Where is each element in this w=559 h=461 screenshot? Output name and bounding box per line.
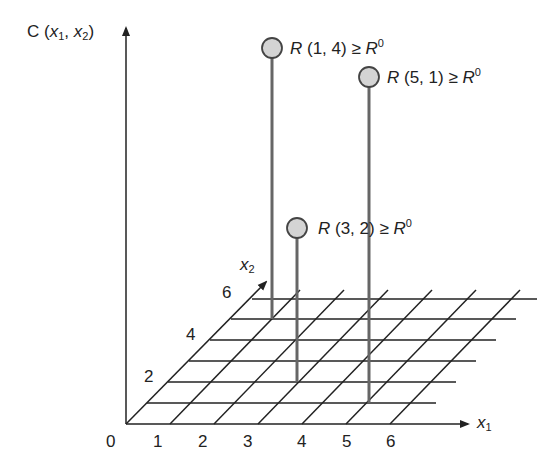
x1-tick-3: 3 bbox=[243, 432, 252, 452]
x2-tick-4: 4 bbox=[186, 325, 195, 345]
y-axis-label: C (x1, x2) bbox=[27, 22, 94, 42]
x2-tick-2: 2 bbox=[144, 367, 153, 387]
x2-tick-6: 6 bbox=[222, 283, 231, 303]
grid bbox=[147, 290, 537, 424]
x1-tick-5: 5 bbox=[342, 432, 351, 452]
point-label-r-1-4: R (1, 4) ≥ R0 bbox=[290, 37, 384, 59]
x1-tick-0: 0 bbox=[106, 432, 115, 452]
x1-tick-4: 4 bbox=[297, 432, 306, 452]
point-label-r-3-2: R (3, 2) ≥ R0 bbox=[318, 217, 412, 239]
x1-tick-2: 2 bbox=[198, 432, 207, 452]
x2-axis-label: x2 bbox=[240, 255, 255, 275]
marker-r-1-4 bbox=[262, 38, 282, 58]
marker-r-5-1 bbox=[359, 67, 379, 87]
point-label-r-5-1: R (5, 1) ≥ R0 bbox=[387, 66, 481, 88]
x1-axis-label: x1 bbox=[477, 413, 492, 433]
marker-r-3-2 bbox=[287, 218, 307, 238]
x1-tick-1: 1 bbox=[153, 432, 162, 452]
x1-tick-6: 6 bbox=[386, 432, 395, 452]
